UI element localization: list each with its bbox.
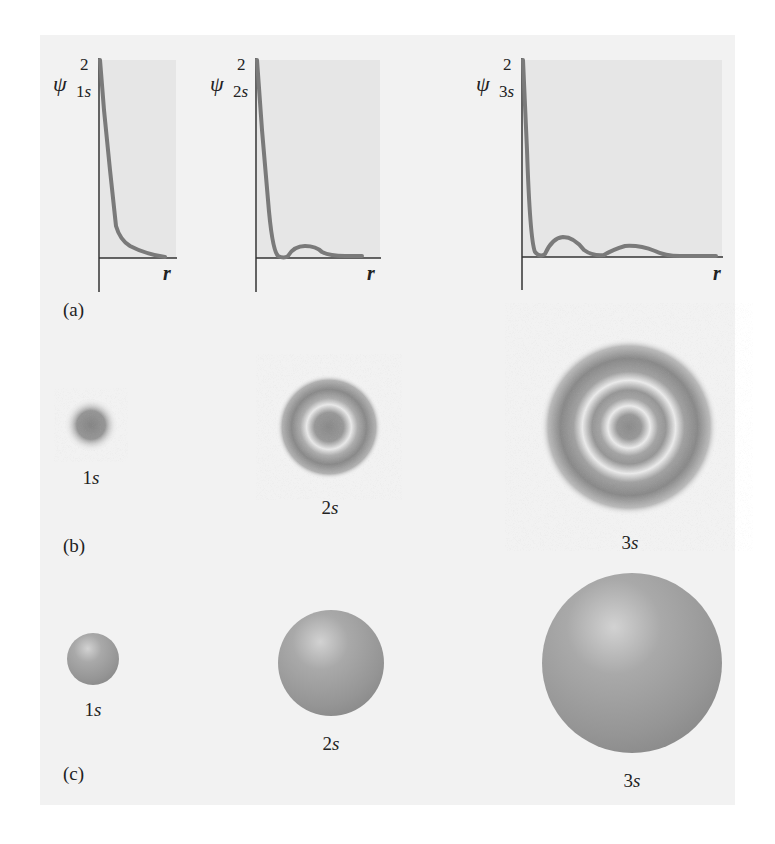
density-2s [277, 375, 381, 479]
density-2s-label: 2s [310, 497, 350, 519]
sphere-3s-label: 3s [612, 770, 652, 792]
sphere-1s [67, 633, 119, 685]
density-plots [0, 0, 775, 844]
sphere-2s-label: 2s [311, 733, 351, 755]
sphere-1s-label: 1s [73, 699, 113, 721]
part-b-label: (b) [63, 535, 85, 557]
part-c-label: (c) [63, 763, 84, 785]
sphere-3s [542, 573, 722, 753]
sphere-2s [278, 610, 384, 716]
density-3s-label: 3s [610, 532, 650, 554]
density-1s [65, 399, 117, 451]
density-1s-label: 1s [71, 467, 111, 489]
density-3s [541, 339, 717, 515]
